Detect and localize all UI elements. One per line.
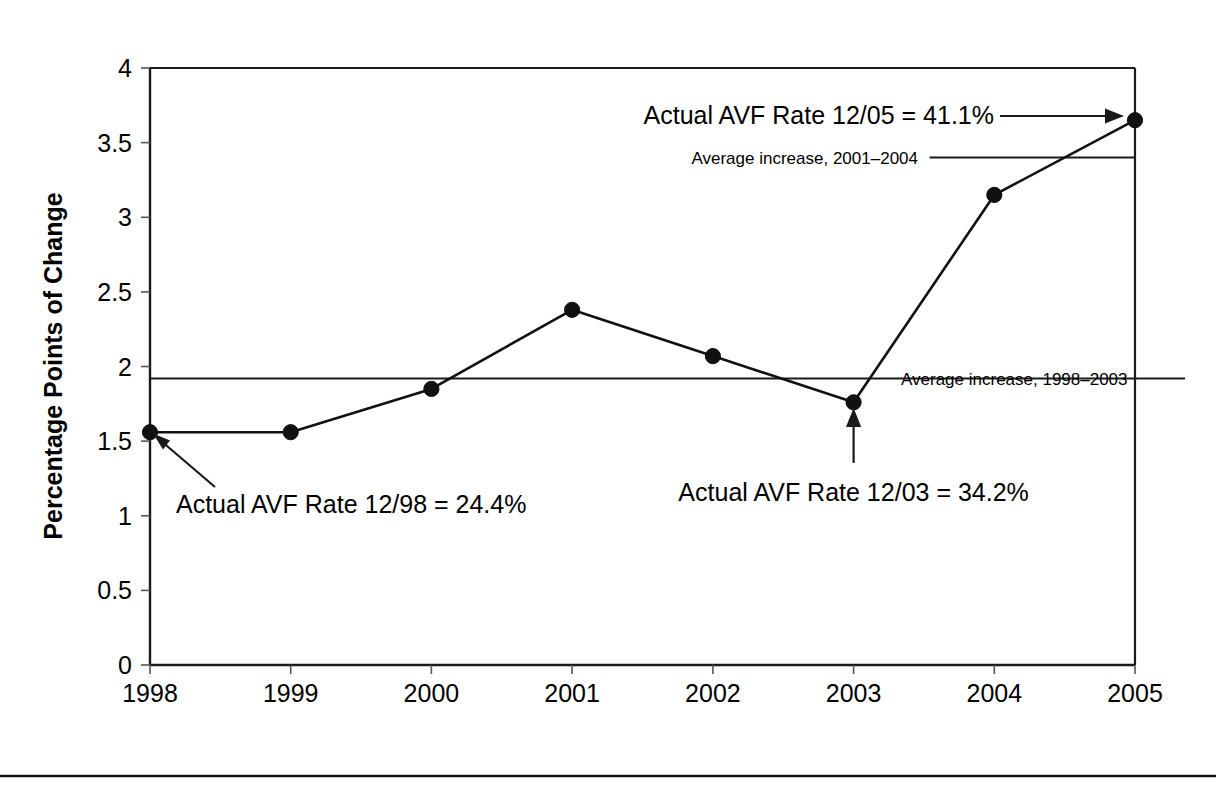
x-axis-ticks: 1998 1999 2000 2001 2002 2003 2004 2005 bbox=[122, 665, 1163, 707]
y-tick-label-6: 3 bbox=[118, 203, 132, 231]
data-point-2001 bbox=[565, 302, 580, 317]
callout-1998-arrow-line bbox=[160, 440, 215, 487]
y-tick-label-7: 3.5 bbox=[97, 129, 132, 157]
y-tick-label-2: 1 bbox=[118, 502, 132, 530]
x-tick-label-2002: 2002 bbox=[685, 679, 741, 707]
callout-2003-label: Actual AVF Rate 12/03 = 34.2% bbox=[678, 478, 1028, 506]
y-tick-label-1: 0.5 bbox=[97, 576, 132, 604]
data-series bbox=[142, 113, 1142, 440]
callout-2005-label: Actual AVF Rate 12/05 = 41.1% bbox=[644, 101, 994, 129]
data-point-2005 bbox=[1127, 113, 1142, 128]
data-point-2000 bbox=[424, 381, 439, 396]
annotation-2005: Actual AVF Rate 12/05 = 41.1% bbox=[644, 101, 1124, 129]
x-tick-label-2001: 2001 bbox=[544, 679, 600, 707]
x-tick-label-2000: 2000 bbox=[404, 679, 460, 707]
y-tick-label-8: 4 bbox=[118, 54, 132, 82]
average-increase-1998-2003-label: Average increase, 1998–2003 bbox=[901, 370, 1128, 389]
x-tick-label-2003: 2003 bbox=[826, 679, 882, 707]
data-point-1998 bbox=[142, 425, 157, 440]
annotation-1998: Actual AVF Rate 12/98 = 24.4% bbox=[153, 434, 526, 519]
x-tick-label-1998: 1998 bbox=[122, 679, 178, 707]
y-tick-label-3: 1.5 bbox=[97, 427, 132, 455]
y-tick-label-5: 2.5 bbox=[97, 278, 132, 306]
chart-figure: 0 0.5 1 1.5 2 2.5 3 3.5 4 1998 1999 2000… bbox=[0, 0, 1216, 790]
data-point-2003 bbox=[846, 395, 861, 410]
reference-lines: Average increase, 1998–2003 Average incr… bbox=[150, 149, 1185, 389]
callout-1998-label: Actual AVF Rate 12/98 = 24.4% bbox=[176, 490, 526, 518]
x-tick-label-1999: 1999 bbox=[263, 679, 319, 707]
data-point-2002 bbox=[705, 349, 720, 364]
line-chart-canvas: 0 0.5 1 1.5 2 2.5 3 3.5 4 1998 1999 2000… bbox=[0, 0, 1216, 790]
x-tick-label-2004: 2004 bbox=[966, 679, 1022, 707]
y-axis-title: Percentage Points of Change bbox=[39, 192, 67, 539]
average-increase-2001-2004-label: Average increase, 2001–2004 bbox=[691, 149, 918, 168]
data-point-2004 bbox=[987, 187, 1002, 202]
callout-2005-arrow-head bbox=[1105, 109, 1124, 124]
callout-2003-arrow-head bbox=[846, 408, 861, 427]
y-axis-ticks: 0 0.5 1 1.5 2 2.5 3 3.5 4 bbox=[97, 54, 150, 679]
y-tick-label-0: 0 bbox=[118, 651, 132, 679]
y-tick-label-4: 2 bbox=[118, 353, 132, 381]
data-point-1999 bbox=[283, 425, 298, 440]
x-tick-label-2005: 2005 bbox=[1107, 679, 1163, 707]
annotation-2003: Actual AVF Rate 12/03 = 34.2% bbox=[678, 408, 1028, 506]
